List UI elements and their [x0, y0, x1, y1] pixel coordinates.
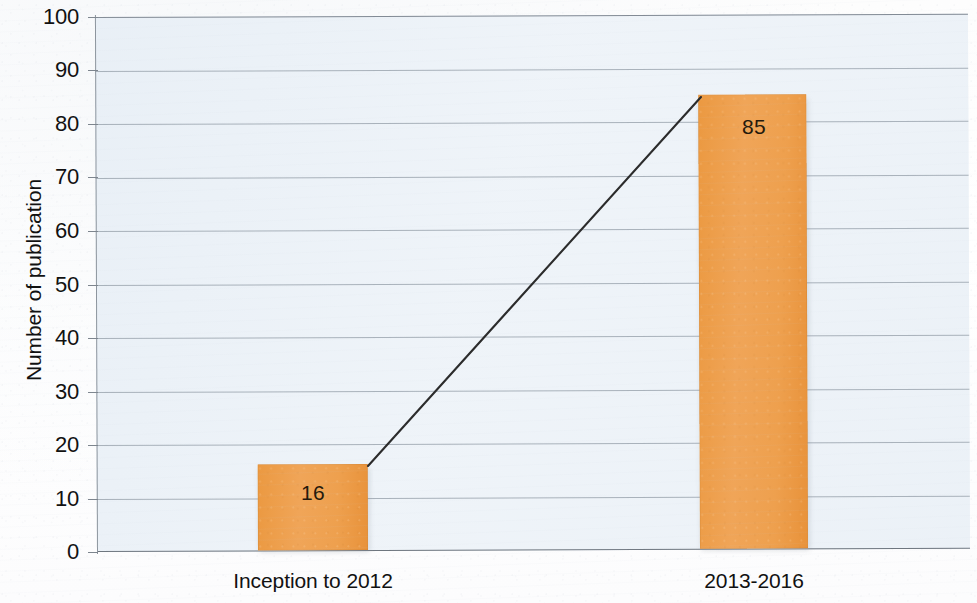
- tick-mark-30: [88, 392, 98, 393]
- x-category-label-2013-2016: 2013-2016: [634, 570, 874, 591]
- gridline-30: [96, 388, 969, 392]
- tick-mark-0: [88, 552, 98, 553]
- bar-2013-2016[interactable]: [698, 94, 808, 548]
- y-tick-label-100: 100: [9, 6, 79, 28]
- tick-mark-70: [88, 177, 98, 178]
- tick-mark-90: [88, 70, 98, 71]
- tick-mark-50: [88, 285, 98, 286]
- y-tick-label-20: 20: [9, 434, 79, 456]
- tick-mark-10: [88, 499, 98, 500]
- y-tick-label-80: 80: [9, 113, 79, 135]
- gridline-40: [96, 335, 969, 339]
- tick-mark-60: [88, 231, 98, 232]
- x-category-label-inception-to-2012: Inception to 2012: [193, 570, 433, 591]
- bar-inception-to-2012[interactable]: [258, 464, 368, 550]
- y-tick-label-10: 10: [9, 488, 79, 510]
- bar-value-label-2013-2016: 85: [700, 116, 808, 137]
- gridline-10: [97, 495, 970, 499]
- gridline-100: [95, 14, 968, 18]
- tick-mark-100: [88, 17, 98, 18]
- tick-mark-40: [88, 338, 98, 339]
- gridline-60: [96, 228, 969, 232]
- tick-mark-80: [88, 124, 98, 125]
- gridline-90: [95, 67, 968, 71]
- bar-chart: 100 90 80 70 60 50 40 30 20 10 0 16 85 N…: [0, 0, 977, 603]
- tick-mark-20: [88, 445, 98, 446]
- gridline-50: [96, 281, 969, 285]
- gridline-70: [96, 174, 969, 178]
- gridline-80: [95, 121, 968, 125]
- plot-area: [95, 14, 970, 552]
- gridline-20: [97, 442, 970, 446]
- gridline-0-baseline: [97, 548, 970, 552]
- y-tick-label-90: 90: [9, 59, 79, 81]
- bar-value-label-inception-to-2012: 16: [258, 482, 368, 503]
- y-tick-label-0: 0: [9, 541, 79, 563]
- y-axis-title: Number of publication: [22, 150, 46, 410]
